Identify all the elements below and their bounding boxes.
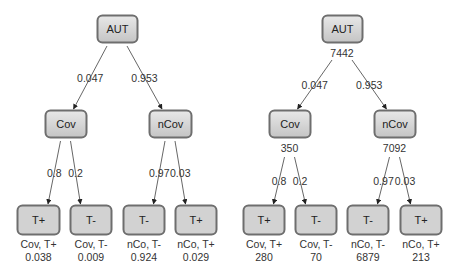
probability-tree-leaf-cov-tpos-label: T+ xyxy=(32,214,45,226)
probability-tree-leaf-cov-tneg-value: 0.009 xyxy=(78,251,104,263)
frequency-tree-node-cov[interactable]: Cov xyxy=(270,111,311,138)
frequency-tree-root-node-label: AUT xyxy=(332,23,354,35)
frequency-tree-edge-cov-probability: 0.047 xyxy=(302,79,328,91)
frequency-tree-leaf-cov-tneg[interactable]: T- xyxy=(296,206,337,235)
probability-tree-leaf-cov-tpos-value: 0.038 xyxy=(25,251,51,263)
edges-layer: 0.0470.80.20.9530.970.030.0470.80.20.953… xyxy=(47,46,415,204)
probability-tree-leaf-cov-tpos[interactable]: T+ xyxy=(18,206,60,235)
frequency-tree-leaf-ncov-tpos-value: 213 xyxy=(412,251,430,263)
probability-tree-leaf-ncov-tpos-value: 0.029 xyxy=(183,251,209,263)
probability-tree-edge-ncov-probability: 0.953 xyxy=(131,72,157,84)
probability-tree-leaf-ncov-tneg-edge-probability: 0.97 xyxy=(149,167,170,179)
probability-tree-leaf-ncov-tneg[interactable]: T- xyxy=(124,206,165,235)
frequency-tree-leaf-ncov-tneg-edge-probability: 0.97 xyxy=(373,175,394,187)
frequency-tree-leaf-ncov-tpos-caption: nCo, T+ xyxy=(402,238,439,250)
frequency-tree-leaf-ncov-tneg-label: T- xyxy=(363,214,373,226)
probability-tree-leaf-cov-tneg-label: T- xyxy=(86,214,96,226)
frequency-tree-node-ncov-label: nCov xyxy=(382,118,408,130)
probability-tree-node-ncov[interactable]: nCov xyxy=(150,111,192,138)
frequency-tree-leaf-ncov-tneg-value: 6879 xyxy=(356,251,380,263)
frequency-tree-root-count: 7442 xyxy=(330,47,354,59)
probability-tree-leaf-ncov-tneg-value: 0.924 xyxy=(131,251,157,263)
frequency-tree-leaf-ncov-tneg[interactable]: T- xyxy=(348,206,389,235)
probability-tree-leaf-cov-tneg[interactable]: T- xyxy=(71,206,112,235)
probability-tree-leaf-ncov-tpos-caption: nCo, T+ xyxy=(177,238,214,250)
probability-tree-node-cov[interactable]: Cov xyxy=(46,111,87,138)
frequency-tree-leaf-ncov-tpos-edge-probability: 0.03 xyxy=(395,175,416,187)
frequency-tree-edge-ncov-probability: 0.953 xyxy=(356,79,382,91)
frequency-tree-ncov-count: 7092 xyxy=(383,142,407,154)
frequency-tree-leaf-ncov-tpos[interactable]: T+ xyxy=(401,206,442,235)
frequency-tree-leaf-cov-tneg-label: T- xyxy=(311,214,321,226)
probability-tree-leaf-cov-tneg-caption: Cov, T- xyxy=(75,238,108,250)
frequency-tree-leaf-cov-tneg-edge-probability: 0.2 xyxy=(293,175,308,187)
probability-tree-leaf-ncov-tpos-label: T+ xyxy=(189,214,202,226)
frequency-tree-leaf-cov-tneg-caption: Cov, T- xyxy=(300,238,333,250)
frequency-tree-leaf-cov-tpos-label: T+ xyxy=(257,214,270,226)
frequency-tree-leaf-cov-tpos[interactable]: T+ xyxy=(244,206,285,235)
frequency-tree-leaf-cov-tpos-caption: Cov, T+ xyxy=(246,238,282,250)
frequency-tree-leaf-ncov-tpos-label: T+ xyxy=(414,214,427,226)
frequency-tree-node-cov-label: Cov xyxy=(280,118,300,130)
frequency-tree-cov-count: 350 xyxy=(281,142,299,154)
probability-tree-leaf-cov-tpos-edge-probability: 0.8 xyxy=(47,167,62,179)
probability-tree-leaf-ncov-tpos-edge-probability: 0.03 xyxy=(170,167,191,179)
nodes-layer: AUTCovT+Cov, T+0.038T-Cov, T-0.009nCovT-… xyxy=(18,16,442,264)
probability-tree-leaf-cov-tneg-edge-probability: 0.2 xyxy=(68,167,83,179)
probability-tree-node-cov-label: Cov xyxy=(56,118,76,130)
frequency-tree-node-ncov[interactable]: nCov xyxy=(375,111,416,138)
probability-tree-edge-cov-probability: 0.047 xyxy=(77,72,103,84)
probability-tree-node-ncov-label: nCov xyxy=(158,118,184,130)
frequency-tree-root-node[interactable]: AUT xyxy=(323,16,363,43)
probability-tree-leaf-ncov-tneg-label: T- xyxy=(139,214,149,226)
tree-diagrams: 0.0470.80.20.9530.970.030.0470.80.20.953… xyxy=(0,0,458,274)
frequency-tree-leaf-cov-tpos-edge-probability: 0.8 xyxy=(272,175,287,187)
probability-tree-leaf-ncov-tneg-caption: nCo, T- xyxy=(127,238,162,250)
probability-tree-root-node-label: AUT xyxy=(107,23,129,35)
frequency-tree-leaf-ncov-tneg-caption: nCo, T- xyxy=(351,238,386,250)
probability-tree-leaf-ncov-tpos[interactable]: T+ xyxy=(176,206,217,235)
probability-tree-leaf-cov-tpos-caption: Cov, T+ xyxy=(20,238,56,250)
probability-tree-root-node[interactable]: AUT xyxy=(98,16,138,43)
frequency-tree-leaf-cov-tpos-value: 280 xyxy=(255,251,273,263)
frequency-tree-leaf-cov-tneg-value: 70 xyxy=(310,251,322,263)
